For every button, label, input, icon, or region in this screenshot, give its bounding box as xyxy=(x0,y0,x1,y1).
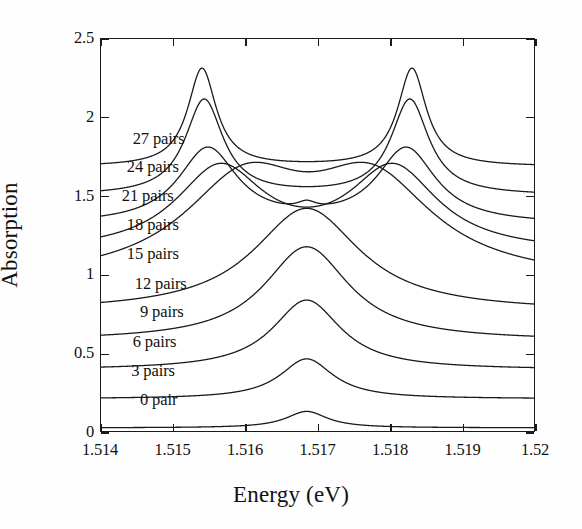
y-axis-tick-right xyxy=(526,354,534,355)
curve-label: 9 pairs xyxy=(140,304,184,321)
x-axis-tick-label: 1.516 xyxy=(227,442,263,459)
y-axis-tick-label: 2.5 xyxy=(52,30,94,47)
curve-label: 27 pairs xyxy=(133,131,185,148)
spectrum-curve xyxy=(101,68,534,164)
x-axis-tick-top xyxy=(173,39,174,46)
y-axis-tick-right xyxy=(526,38,534,39)
y-axis-tick-left xyxy=(101,432,109,433)
y-axis-title: Absorption xyxy=(0,182,23,288)
y-axis-tick-left xyxy=(101,275,109,276)
y-axis-tick-right xyxy=(526,432,534,433)
curve-label: 0 pair xyxy=(140,392,177,409)
x-axis-tick-label: 1.518 xyxy=(372,442,408,459)
x-axis-tick-top xyxy=(245,39,246,46)
y-axis-tick-label: 2 xyxy=(52,109,94,126)
x-axis-tick-bottom xyxy=(100,424,101,431)
y-axis-tick-label: 0 xyxy=(52,424,94,441)
x-axis-tick-bottom xyxy=(535,424,536,431)
x-axis-tick-top xyxy=(100,39,101,46)
curve-label: 18 pairs xyxy=(127,217,179,234)
x-axis-tick-bottom xyxy=(318,424,319,431)
x-axis-tick-label: 1.517 xyxy=(299,442,335,459)
y-axis-tick-label: 1 xyxy=(52,266,94,283)
y-axis-tick-right xyxy=(526,196,534,197)
x-axis-tick-top xyxy=(390,39,391,46)
curve-label: 3 pairs xyxy=(131,363,175,380)
y-axis-tick-left xyxy=(101,117,109,118)
y-axis-tick-label: 1.5 xyxy=(52,187,94,204)
curve-label: 24 pairs xyxy=(127,159,179,176)
x-axis-tick-bottom xyxy=(173,424,174,431)
y-axis-tick-left xyxy=(101,38,109,39)
x-axis-tick-bottom xyxy=(390,424,391,431)
x-axis-tick-top xyxy=(463,39,464,46)
curve-label: 15 pairs xyxy=(127,246,179,263)
x-axis-tick-top xyxy=(318,39,319,46)
x-axis-tick-label: 1.515 xyxy=(154,442,190,459)
curve-label: 6 pairs xyxy=(133,334,177,351)
x-axis-tick-label: 1.519 xyxy=(444,442,480,459)
y-axis-tick-label: 0.5 xyxy=(52,345,94,362)
x-axis-tick-bottom xyxy=(245,424,246,431)
y-axis-tick-right xyxy=(526,117,534,118)
curve-label: 12 pairs xyxy=(135,276,187,293)
absorption-spectra-figure: Absorption Energy (eV) 1.5141.5151.5161.… xyxy=(0,0,582,529)
y-axis-tick-right xyxy=(526,275,534,276)
y-axis-tick-left xyxy=(101,354,109,355)
x-axis-title: Energy (eV) xyxy=(0,482,582,508)
curve-label: 21 pairs xyxy=(122,188,174,205)
x-axis-tick-top xyxy=(535,39,536,46)
y-axis-tick-left xyxy=(101,196,109,197)
x-axis-tick-label: 1.52 xyxy=(521,442,549,459)
x-axis-tick-bottom xyxy=(463,424,464,431)
x-axis-tick-label: 1.514 xyxy=(82,442,118,459)
